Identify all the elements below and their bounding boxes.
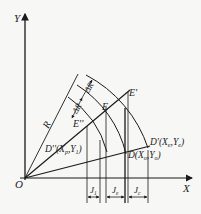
- point-e-double-prime-label: E'': [72, 118, 84, 129]
- point-d-prime-label: D'(Xe,Ye): [149, 137, 184, 148]
- point-d-label: D(Xo,Yo): [127, 150, 161, 161]
- origin-label: O: [15, 178, 23, 190]
- dim-je-label: Je: [112, 185, 119, 196]
- arc-middle: [77, 85, 126, 154]
- radius-label: R: [40, 119, 53, 130]
- delta-r-label-1: ΔR: [69, 101, 84, 116]
- point-e-prime-label: E': [128, 87, 138, 98]
- dim-j1-label: J1: [90, 185, 97, 196]
- point-e-label: E: [101, 101, 108, 112]
- delta-r-label-2: ΔR: [81, 80, 96, 95]
- y-axis-label: Y: [14, 12, 22, 24]
- diagram-canvas: Y X O R ΔR ΔR E'' E E' D''(Xp,Y1) D'(Xe,…: [0, 0, 201, 214]
- point-d-double-prime-label: D''(Xp,Y1): [44, 144, 82, 155]
- x-axis-label: X: [182, 182, 191, 194]
- arc-outer: [86, 75, 148, 148]
- dim-jc-label: Jc: [134, 185, 141, 196]
